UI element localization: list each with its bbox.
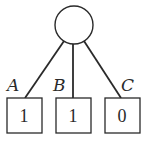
leaf-value-b: 1 bbox=[55, 107, 91, 125]
leaf-value-a: 1 bbox=[6, 107, 42, 125]
edge-label-c: C bbox=[121, 77, 134, 94]
edge-label-b: B bbox=[53, 77, 66, 94]
leaf-value-c: 0 bbox=[104, 107, 140, 125]
edge-label-a: A bbox=[7, 77, 19, 94]
edge-c bbox=[84, 41, 121, 98]
root-node bbox=[55, 6, 93, 44]
